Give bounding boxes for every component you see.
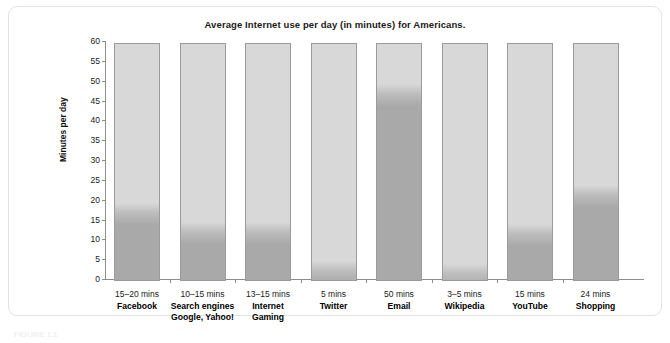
bar-fill xyxy=(508,224,552,280)
bar xyxy=(311,43,357,281)
bar xyxy=(180,43,226,281)
bar-fill xyxy=(246,222,290,280)
y-tick-label: 15 xyxy=(91,215,100,225)
y-tick-mark xyxy=(102,180,105,181)
y-tick-mark xyxy=(102,101,105,102)
y-tick-label: 0 xyxy=(95,274,100,284)
y-tick-mark xyxy=(102,200,105,201)
bar-fill xyxy=(181,222,225,280)
y-tick-label: 30 xyxy=(91,155,100,165)
y-tick-label: 25 xyxy=(91,175,100,185)
y-tick-mark xyxy=(102,81,105,82)
bar-fill xyxy=(115,203,159,280)
x-tick-mark xyxy=(235,279,236,283)
x-label-value: 24 mins xyxy=(557,289,635,301)
y-tick-mark xyxy=(102,140,105,141)
y-tick-mark xyxy=(102,41,105,42)
x-tick-mark xyxy=(301,279,302,283)
bar-fill xyxy=(443,264,487,280)
x-tick-mark xyxy=(563,279,564,283)
y-tick-label: 10 xyxy=(91,234,100,244)
chart-title: Average Internet use per day (in minutes… xyxy=(9,19,661,30)
y-tick-mark xyxy=(102,239,105,240)
y-tick-mark xyxy=(102,160,105,161)
y-tick-mark xyxy=(102,279,105,280)
bar-fill xyxy=(574,185,618,280)
x-label-name: Shopping xyxy=(557,301,635,313)
figure-card: Average Internet use per day (in minutes… xyxy=(8,6,662,316)
y-axis-title: Minutes per day xyxy=(58,97,68,162)
bar-fill xyxy=(377,84,421,280)
y-tick-mark xyxy=(102,220,105,221)
bar xyxy=(442,43,488,281)
y-tick-label: 5 xyxy=(95,254,100,264)
y-tick-label: 20 xyxy=(91,195,100,205)
y-tick-label: 35 xyxy=(91,135,100,145)
bar-fill xyxy=(312,261,356,280)
y-tick-label: 40 xyxy=(91,115,100,125)
y-tick-mark xyxy=(102,120,105,121)
bar xyxy=(245,43,291,281)
y-tick-label: 55 xyxy=(91,56,100,66)
x-tick-mark xyxy=(170,279,171,283)
y-tick-label: 60 xyxy=(91,36,100,46)
y-axis-line xyxy=(105,41,106,279)
x-tick-mark xyxy=(366,279,367,283)
y-tick-mark xyxy=(102,61,105,62)
bar xyxy=(507,43,553,281)
y-tick-label: 50 xyxy=(91,76,100,86)
plot-area: 051015202530354045505560 15–20 minsFaceb… xyxy=(105,41,645,281)
x-tick-mark xyxy=(432,279,433,283)
figure-caption: FIGURE 1.1 xyxy=(14,330,58,339)
x-tick-mark xyxy=(497,279,498,283)
bar xyxy=(573,43,619,281)
y-tick-mark xyxy=(102,259,105,260)
bar xyxy=(114,43,160,281)
x-label-name-secondary: Gaming xyxy=(229,312,307,324)
x-label-group: 24 minsShopping xyxy=(557,289,635,312)
y-tick-label: 45 xyxy=(91,96,100,106)
bar xyxy=(376,43,422,281)
